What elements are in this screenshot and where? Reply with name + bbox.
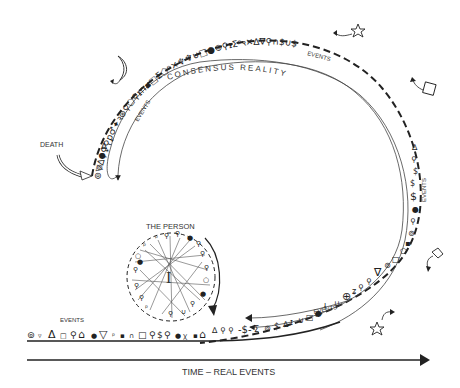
bottom-line-symbols: ⊚ ▿ Δ □ ⚲ ⌂ ● ▽ ᵖ ▪ ∩ □ ⚲ $ ⚲ ● ꭓ ▪ ⌂ <box>27 328 206 341</box>
svg-text:●: ● <box>412 205 419 214</box>
svg-text:∆: ∆ <box>282 320 289 329</box>
svg-text:⚲: ⚲ <box>204 264 209 272</box>
svg-text:●: ● <box>200 290 206 298</box>
svg-text:∆: ∆ <box>411 143 418 152</box>
svg-text:ᵖ: ᵖ <box>143 242 146 250</box>
svg-text:⊚: ⊚ <box>264 324 271 333</box>
svg-text:□: □ <box>138 330 147 340</box>
person-center-label: I <box>166 269 171 286</box>
svg-text:□: □ <box>60 332 67 340</box>
svg-text:ᵖ: ᵖ <box>155 234 158 242</box>
svg-text:⌂: ⌂ <box>78 328 85 341</box>
svg-text:ʑ: ʑ <box>352 287 356 296</box>
svg-text:⚲: ⚲ <box>200 250 205 258</box>
svg-text:-$-: -$- <box>238 324 252 335</box>
star-icon <box>333 24 365 37</box>
svg-text:⚲: ⚲ <box>168 310 173 318</box>
svg-text:$: $ <box>410 179 415 188</box>
svg-text:●: ● <box>187 234 193 242</box>
time-axis-arrowhead <box>420 354 430 366</box>
person-circle: I ᵖ ⚲ ⚲ ● ⚲ ᵖ ⚲ ○ ● ⚲ ⚲ ○ ⚲ ● ⚲ ⚲ ᵖ ⚲ ∪ <box>127 230 215 321</box>
svg-text:∪: ∪ <box>298 316 304 325</box>
svg-text:●: ● <box>99 151 106 160</box>
svg-text:⚲: ⚲ <box>196 240 201 248</box>
svg-text:●: ● <box>137 258 143 266</box>
person-cycle-arrow <box>205 238 220 310</box>
svg-text:⚲: ⚲ <box>175 230 180 238</box>
svg-text:○: ○ <box>203 276 209 284</box>
death-arrowhead <box>80 171 92 180</box>
svg-text:Δ: Δ <box>48 328 56 341</box>
death-label: DEATH <box>40 141 63 148</box>
the-person-label: THE PERSON <box>146 222 195 231</box>
square-icon <box>410 77 436 95</box>
svg-text:⚲: ⚲ <box>164 330 171 340</box>
events-label-bottom-line: EVENTS <box>60 317 84 323</box>
diagram: ⊚▽∆⚲♀⚲ꝑ♂✦ꝛ⊛⚲⬠⚲ᵻ∩▪□Σ⬠ᵖ✕♆♆∪□●⊚⚲ᵻΣᵖꝛ✕∆∇⚲∩$∪… <box>0 0 460 388</box>
svg-text:⌂: ⌂ <box>199 328 206 341</box>
events-label-right: EVENTS <box>421 178 427 202</box>
svg-text:⚲: ⚲ <box>149 330 156 340</box>
svg-text:⊚: ⊚ <box>27 330 35 340</box>
svg-text:▿: ▿ <box>38 332 42 340</box>
death-arrow <box>58 155 82 176</box>
svg-text:●: ● <box>315 309 322 318</box>
svg-text:ᵻ: ᵻ <box>290 318 293 327</box>
svg-text:ꭓ: ꭓ <box>183 332 188 340</box>
bottom-inner-arrowhead <box>245 314 252 322</box>
svg-text:□: □ <box>306 313 314 322</box>
svg-text:⊚: ⊚ <box>408 229 415 238</box>
star-icon <box>370 309 395 335</box>
svg-text:●: ● <box>175 332 181 340</box>
svg-text:⚲: ⚲ <box>366 277 372 286</box>
svg-text:∇: ∇ <box>373 266 382 279</box>
bottom-arc-symbols: ⚲ ʑ ⊕ ∪ ⱡ ● □ ∪ ᵻ ∆ $ ⊚ Σ -$- ⚲ ⚲ ∆ <box>211 283 364 335</box>
svg-text:▽: ▽ <box>99 328 108 341</box>
svg-text:∪: ∪ <box>181 308 186 316</box>
svg-text:⚲: ⚲ <box>133 266 138 274</box>
svg-text:ᵖ: ᵖ <box>112 332 115 340</box>
svg-text:●: ● <box>91 332 97 340</box>
svg-text:∆: ∆ <box>100 141 108 151</box>
svg-text:ᵖ: ᵖ <box>145 304 148 312</box>
svg-text:⬠: ⬠ <box>400 247 407 256</box>
svg-text:⚲: ⚲ <box>228 326 234 335</box>
svg-text:⊚: ⊚ <box>96 163 103 172</box>
right-arc-symbols: ∆ ⚲ $ $ $ ● ⚲ ⊚ ▪ ⬠ □ ⊚ ∇ ⚲ <box>366 143 419 286</box>
svg-text:$: $ <box>274 322 279 331</box>
house-icon <box>426 248 443 272</box>
svg-text:⚲: ⚲ <box>220 326 226 335</box>
svg-text:∆: ∆ <box>211 326 218 335</box>
svg-text:⚲: ⚲ <box>70 330 77 340</box>
svg-text:⚲: ⚲ <box>134 282 139 290</box>
svg-text:⊚: ⊚ <box>384 261 391 270</box>
svg-text:▪: ▪ <box>193 332 198 340</box>
svg-text:⚲: ⚲ <box>410 217 416 226</box>
moon-icon <box>110 56 127 84</box>
svg-text:$: $ <box>410 190 417 203</box>
svg-text:∩: ∩ <box>129 332 134 340</box>
person-cycle-arrowhead <box>208 305 217 316</box>
svg-text:Σ: Σ <box>254 325 259 334</box>
top-arc-symbols: ⊚▽∆⚲♀⚲ꝑ♂✦ꝛ⊛⚲⬠⚲ᵻ∩▪□Σ⬠ᵖ✕♆♆∪□●⊚⚲ᵻΣᵖꝛ✕∆∇⚲∩$∪… <box>92 36 298 180</box>
svg-text:⚲: ⚲ <box>164 232 169 240</box>
svg-text:▪: ▪ <box>120 332 125 340</box>
svg-text:$: $ <box>157 330 163 340</box>
time-axis-label: TIME – REAL EVENTS <box>182 367 275 377</box>
svg-text:⚲: ⚲ <box>358 283 364 292</box>
svg-text:□: □ <box>392 255 400 264</box>
svg-text:⚲: ⚲ <box>139 294 144 302</box>
svg-text:$: $ <box>413 167 418 176</box>
svg-text:⚲: ⚲ <box>411 155 417 164</box>
svg-text:⚲: ⚲ <box>190 300 195 308</box>
